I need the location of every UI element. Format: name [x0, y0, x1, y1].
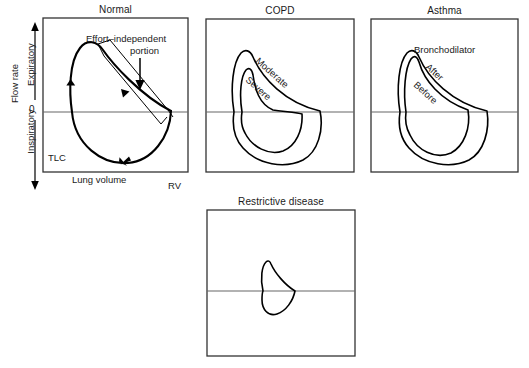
restrictive-curve [262, 261, 295, 315]
y-axis-expiratory-label: Expiratory [25, 34, 36, 96]
flow-volume-loops-figure: Normal COPD Asthma Restrictive disease F… [0, 0, 529, 368]
x-axis-title: Lung volume [72, 174, 126, 185]
panel-restrictive [207, 210, 355, 356]
panel-asthma [371, 19, 518, 172]
x-axis-tlc-marker: TLC [48, 152, 66, 163]
panel-asthma-frame [371, 19, 518, 172]
asthma-after-curve [398, 51, 488, 165]
y-axis-title: Flow rate [9, 52, 20, 116]
effort-independent-arrow-icon [135, 58, 144, 90]
normal-direction-arrow-up [66, 79, 75, 86]
panel-restrictive-frame [207, 210, 355, 356]
panel-title-copd: COPD [206, 5, 354, 16]
copd-moderate-curve [232, 51, 321, 165]
effort-independent-caption-line2: portion [130, 45, 159, 56]
panel-title-normal: Normal [43, 4, 188, 15]
panel-title-asthma: Asthma [371, 5, 518, 16]
normal-direction-arrow-down [121, 89, 130, 98]
x-axis-rv-marker: RV [168, 180, 181, 191]
panel-copd-frame [206, 19, 354, 172]
effort-independent-caption-line1: Effort–independent [86, 33, 166, 44]
y-axis-zero-tick: 0 [29, 104, 35, 115]
panel-copd [206, 19, 354, 172]
panel-title-restrictive: Restrictive disease [207, 196, 355, 207]
bronchodilator-caption: Bronchodilator [414, 44, 475, 55]
